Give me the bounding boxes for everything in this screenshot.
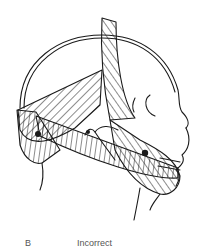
bandage-head-illustration <box>0 0 201 250</box>
ear <box>146 95 155 116</box>
pressure-point-jaw <box>142 150 148 156</box>
figure-caption: Incorrect <box>77 238 112 248</box>
pressure-point-back <box>35 131 41 137</box>
vertical-strip <box>101 18 135 120</box>
pressure-point-ear <box>86 130 90 134</box>
jaw-wrap <box>110 120 180 194</box>
neck-line <box>40 163 43 190</box>
panel-label: B <box>25 238 31 248</box>
